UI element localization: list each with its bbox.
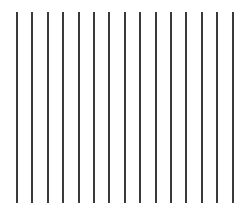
vertical-line	[216, 12, 218, 203]
vertical-line	[93, 12, 95, 203]
vertical-line	[139, 12, 141, 203]
vertical-line	[62, 12, 64, 203]
vertical-line	[201, 12, 203, 203]
vertical-line	[78, 12, 80, 203]
vertical-line	[155, 12, 157, 203]
vertical-line	[47, 12, 49, 203]
vertical-lines-figure	[0, 0, 248, 211]
vertical-line	[108, 12, 110, 203]
vertical-line	[31, 12, 33, 203]
vertical-line	[124, 12, 126, 203]
vertical-line	[232, 12, 234, 203]
vertical-line	[185, 12, 187, 203]
vertical-line	[170, 12, 172, 203]
vertical-line	[16, 12, 18, 203]
